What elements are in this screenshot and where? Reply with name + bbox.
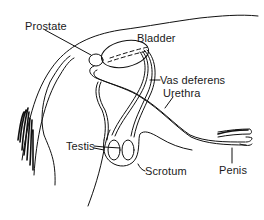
testis-left — [108, 140, 120, 160]
penis-tip — [218, 129, 252, 146]
vas-deferens-left-inner — [115, 52, 148, 136]
reproductive-diagram: Prostate Bladder Vas deferens Urethra Te… — [0, 0, 264, 220]
label-prostate: Prostate — [25, 21, 67, 32]
label-vas-deferens: Vas deferens — [160, 75, 225, 86]
testis-right — [122, 140, 134, 160]
urethra-loop-outer — [96, 82, 105, 140]
penis-dorsal — [218, 130, 248, 134]
vas-deferens-left-outer — [112, 52, 145, 135]
anatomy-drawing — [0, 0, 264, 220]
thigh-inner-outline — [42, 56, 70, 185]
scrotum-leader — [138, 164, 145, 171]
label-bladder: Bladder — [137, 33, 176, 44]
label-urethra: Urethra — [163, 88, 200, 99]
prostate-shape — [89, 54, 103, 66]
urethra-loop-inner — [99, 82, 108, 140]
label-testis: Testis — [66, 141, 95, 152]
label-penis: Penis — [219, 165, 247, 176]
testis-leader — [94, 146, 120, 150]
label-scrotum: Scrotum — [145, 166, 187, 177]
scrotum-outline — [103, 132, 192, 166]
